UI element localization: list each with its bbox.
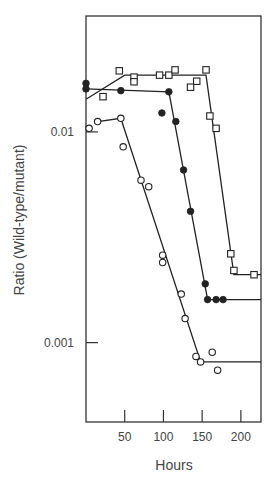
open-circle-marker	[138, 177, 144, 183]
open-circle-marker	[197, 359, 203, 365]
open-circle-marker	[159, 259, 165, 265]
open-square-marker	[100, 93, 106, 99]
filled-circle-marker	[187, 208, 194, 215]
plot-frame	[86, 16, 261, 422]
y-axis-ticks: 0.010.001	[44, 125, 98, 350]
open-circle-marker	[182, 315, 188, 321]
filled-circle-marker	[159, 110, 166, 117]
fit-line	[86, 75, 261, 275]
open-circle-marker	[159, 252, 165, 258]
x-tick-label: 200	[231, 430, 251, 444]
fit-lines	[86, 75, 261, 362]
filled-circle-marker	[166, 89, 173, 96]
open-square-marker	[156, 72, 162, 78]
open-square-marker	[172, 67, 178, 73]
x-tick-label: 100	[153, 430, 173, 444]
filled-circle-marker	[83, 86, 90, 93]
open-square-marker	[231, 267, 237, 273]
y-tick-label: 0.001	[44, 336, 74, 350]
y-tick-label: 0.01	[51, 125, 75, 139]
data-markers	[83, 67, 258, 374]
open-square-marker	[228, 251, 234, 257]
open-circle-marker	[86, 125, 92, 131]
open-circle-marker	[118, 115, 124, 121]
fit-line	[98, 118, 261, 362]
open-circle-marker	[146, 183, 152, 189]
chart: 50100150200 0.010.001 Hours Ratio (Wild-…	[0, 0, 274, 485]
open-circle-marker	[209, 349, 215, 355]
open-square-marker	[116, 68, 122, 74]
open-square-marker	[166, 72, 172, 78]
filled-circle-marker	[213, 296, 220, 303]
filled-circle-marker	[180, 167, 187, 174]
open-square-marker	[213, 125, 219, 131]
plot-border	[86, 16, 261, 422]
open-square-marker	[131, 79, 137, 85]
filled-circle-marker	[118, 87, 125, 94]
filled-circle-marker	[204, 296, 211, 303]
filled-circle-marker	[220, 296, 227, 303]
open-circle-marker	[193, 353, 199, 359]
open-circle-marker	[120, 144, 126, 150]
x-tick-label: 50	[118, 430, 132, 444]
y-axis-title: Ratio (Wild-type/mutant)	[11, 145, 27, 296]
x-axis-title: Hours	[155, 457, 192, 473]
filled-circle-marker	[202, 281, 209, 288]
open-circle-marker	[178, 291, 184, 297]
open-square-marker	[194, 78, 200, 84]
open-circle-marker	[94, 118, 100, 124]
open-square-marker	[203, 67, 209, 73]
filled-circle-marker	[173, 118, 180, 125]
open-circle-marker	[214, 367, 220, 373]
x-tick-label: 150	[192, 430, 212, 444]
x-axis-ticks: 50100150200	[118, 410, 251, 444]
open-square-marker	[187, 84, 193, 90]
open-square-marker	[207, 113, 213, 119]
open-square-marker	[251, 272, 257, 278]
